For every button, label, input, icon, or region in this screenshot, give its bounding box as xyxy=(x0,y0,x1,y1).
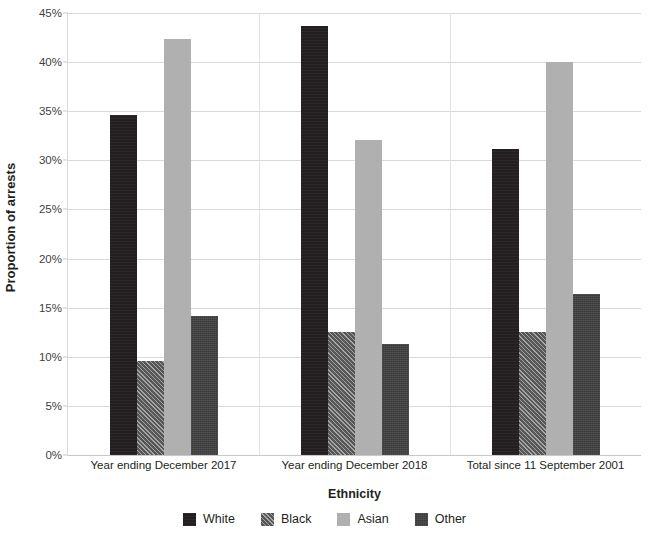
category-separator xyxy=(450,13,451,455)
legend-item-white[interactable]: White xyxy=(183,512,235,526)
chart-legend: WhiteBlackAsianOther xyxy=(0,512,649,526)
plot-area xyxy=(68,13,641,455)
legend-item-asian[interactable]: Asian xyxy=(337,512,388,526)
bar-black[interactable] xyxy=(519,332,546,455)
bar-group-bars xyxy=(259,13,450,455)
legend-item-other[interactable]: Other xyxy=(415,512,466,526)
legend-item-black[interactable]: Black xyxy=(261,512,312,526)
y-axis-tick-label: 40% xyxy=(39,56,62,68)
bar-group xyxy=(450,13,641,455)
y-axis-tick-label: 20% xyxy=(39,253,62,265)
y-axis-tick-label: 35% xyxy=(39,105,62,117)
x-axis-tick-labels: Year ending December 2017Year ending Dec… xyxy=(68,459,641,479)
x-axis-tick-label: Year ending December 2017 xyxy=(91,459,237,471)
y-axis-tick-label: 25% xyxy=(39,203,62,215)
y-axis-tick-label: 0% xyxy=(45,449,62,461)
bar-group-bars xyxy=(450,13,641,455)
y-axis-tick-label: 45% xyxy=(39,7,62,19)
y-axis-title-label: Proportion of arrests xyxy=(4,163,19,292)
bar-other[interactable] xyxy=(191,316,218,455)
bar-asian[interactable] xyxy=(546,62,573,455)
legend-item-label: Black xyxy=(281,512,312,526)
legend-item-label: Asian xyxy=(357,512,388,526)
legend-swatch-icon xyxy=(261,513,274,526)
x-axis-tick-label: Total since 11 September 2001 xyxy=(467,459,625,471)
y-axis-ticks: 0%5%10%15%20%25%30%35%40%45% xyxy=(22,13,62,455)
x-axis-line xyxy=(68,455,641,456)
y-axis-tick-label: 15% xyxy=(39,302,62,314)
y-axis-tick-label: 10% xyxy=(39,351,62,363)
y-axis-tick-label: 30% xyxy=(39,154,62,166)
legend-item-label: White xyxy=(203,512,235,526)
bar-group-bars xyxy=(68,13,259,455)
bar-asian[interactable] xyxy=(355,140,382,455)
bar-black[interactable] xyxy=(137,361,164,455)
bar-black[interactable] xyxy=(328,332,355,455)
category-separator xyxy=(259,13,260,455)
bar-white[interactable] xyxy=(110,115,137,455)
legend-item-label: Other xyxy=(435,512,466,526)
y-axis-tick-label: 5% xyxy=(45,400,62,412)
legend-swatch-icon xyxy=(183,513,196,526)
x-axis-tick-label: Year ending December 2018 xyxy=(282,459,428,471)
bar-other[interactable] xyxy=(573,294,600,455)
bar-asian[interactable] xyxy=(164,39,191,455)
y-axis-title: Proportion of arrests xyxy=(0,0,22,455)
bar-group xyxy=(68,13,259,455)
legend-swatch-icon xyxy=(415,513,428,526)
bar-white[interactable] xyxy=(301,26,328,455)
bar-white[interactable] xyxy=(492,149,519,455)
legend-swatch-icon xyxy=(337,513,350,526)
bar-other[interactable] xyxy=(382,344,409,455)
bar-chart-figure: Proportion of arrests 0%5%10%15%20%25%30… xyxy=(0,0,649,539)
x-axis-title: Ethnicity xyxy=(68,487,641,501)
bar-group xyxy=(259,13,450,455)
